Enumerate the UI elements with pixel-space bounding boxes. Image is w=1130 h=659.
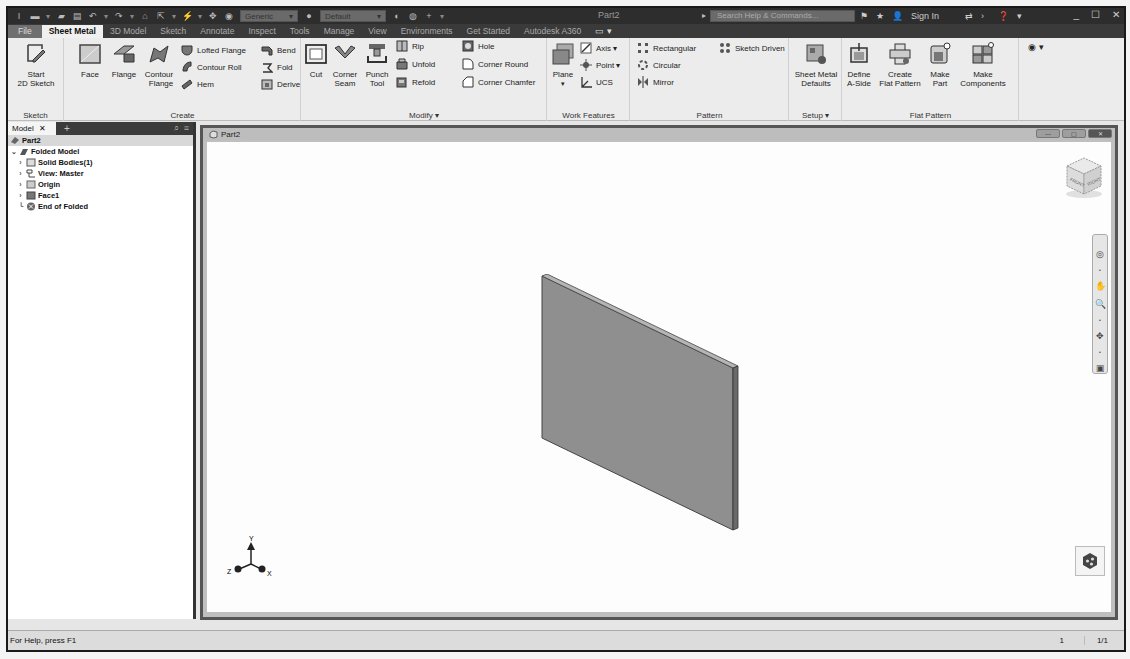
mirror-button[interactable]: Mirror <box>637 76 674 88</box>
rip-button[interactable]: Rip <box>396 40 424 52</box>
panel-title-setup[interactable]: Setup ▾ <box>790 111 841 120</box>
maximize-icon[interactable]: ☐ <box>1091 9 1100 20</box>
tree-item-part2[interactable]: Part2 <box>8 135 193 146</box>
menu-icon[interactable]: ≡ <box>184 123 189 134</box>
tab-sketch[interactable]: Sketch <box>153 25 193 38</box>
subscription-icon[interactable]: ⚑ <box>860 11 868 21</box>
close-icon[interactable]: ✕ <box>1112 9 1120 20</box>
appearance-dropdown[interactable]: Default▾ <box>320 10 386 22</box>
start-2d-sketch-button[interactable]: Start 2D Sketch <box>12 42 60 88</box>
adjust-icon[interactable]: ◍ <box>408 11 418 21</box>
bend-button[interactable]: Bend <box>261 44 296 56</box>
flange-button[interactable]: Flange <box>109 42 139 79</box>
circular-pattern-button[interactable]: Circular <box>637 59 681 71</box>
rectangular-pattern-button[interactable]: Rectangular <box>637 42 696 54</box>
customize-qat-icon[interactable]: ▾ <box>440 12 444 21</box>
home-icon[interactable]: ⌂ <box>140 11 150 21</box>
tab-get-started[interactable]: Get Started <box>460 25 517 38</box>
viewcube[interactable]: FRONT RIGHT <box>1061 154 1107 200</box>
face-button[interactable]: Face <box>77 42 103 79</box>
more-arrow-icon[interactable]: › <box>981 11 984 21</box>
tab-tools[interactable]: Tools <box>283 25 317 38</box>
doc-close-button[interactable]: ✕ <box>1088 129 1112 138</box>
tree-item-origin[interactable]: › Origin <box>8 179 193 190</box>
tab-inspect[interactable]: Inspect <box>241 25 282 38</box>
fx-icon[interactable]: + <box>424 11 434 21</box>
expand-icon[interactable]: › <box>17 170 24 177</box>
tab-manage[interactable]: Manage <box>317 25 362 38</box>
tree-item-view-master[interactable]: › View: Master <box>8 168 193 179</box>
steering-wheel-icon[interactable]: ◎ <box>1096 249 1104 259</box>
minimize-icon[interactable]: _ <box>1073 9 1079 20</box>
clear-appearance-icon[interactable]: ◐ <box>392 11 402 21</box>
ribbon-more-options-icon[interactable]: ◉ ▾ <box>1028 42 1044 52</box>
exchange-icon[interactable]: ⇄ <box>965 11 973 21</box>
create-flat-pattern-button[interactable]: Create Flat Pattern <box>876 42 924 88</box>
help-search-input[interactable]: Search Help & Commands... <box>710 10 855 22</box>
sketch-driven-pattern-button[interactable]: Sketch Driven <box>719 42 785 54</box>
inventor-logo-icon[interactable]: I <box>14 11 24 21</box>
redo-icon[interactable]: ↷ <box>114 11 124 21</box>
tab-autodesk-a360[interactable]: Autodesk A360 <box>517 25 588 38</box>
update-icon[interactable]: ⚡ <box>182 11 192 21</box>
tab-sheet-metal[interactable]: Sheet Metal <box>42 25 103 38</box>
fold-button[interactable]: Fold <box>261 61 293 73</box>
panel-title-modify[interactable]: Modify ▾ <box>302 111 546 120</box>
ucs-button[interactable]: UCS <box>580 76 613 88</box>
tab-file[interactable]: File <box>8 25 42 38</box>
hem-button[interactable]: Hem <box>181 78 214 90</box>
plane-dropdown-icon[interactable]: ▾ <box>561 79 565 88</box>
make-components-button[interactable]: Make Components <box>957 42 1009 88</box>
sheet-metal-defaults-button[interactable]: Sheet Metal Defaults <box>792 42 840 88</box>
derive-button[interactable]: Derive <box>261 78 300 90</box>
save-icon[interactable]: ▤ <box>72 11 82 21</box>
make-part-button[interactable]: Make Part <box>925 42 955 88</box>
tab-annotate[interactable]: Annotate <box>193 25 241 38</box>
tab-model[interactable]: Model ✕ <box>8 122 56 135</box>
measure-icon[interactable]: ✥ <box>208 11 218 21</box>
tab-environments[interactable]: Environments <box>394 25 460 38</box>
ribbon-display-toggle-icon[interactable]: ▭ ▾ <box>588 25 618 38</box>
color-icon[interactable]: ◉ <box>224 11 234 21</box>
tree-item-folded-model[interactable]: ⌄ Folded Model <box>8 146 193 157</box>
plane-button[interactable]: Plane ▾ <box>550 42 576 88</box>
pan-icon[interactable]: ✋ <box>1095 281 1106 291</box>
tree-item-solid-bodies[interactable]: › Solid Bodies(1) <box>8 157 193 168</box>
select-icon[interactable]: ⇱ <box>156 11 166 21</box>
graphics-canvas[interactable]: FRONT RIGHT ◎ • ✋ 🔍 • ✥ • ▣ <box>207 142 1111 612</box>
tree-item-end-of-folded[interactable]: ╰ End of Folded <box>8 201 193 212</box>
search-icon[interactable]: ⌕ <box>174 123 179 134</box>
corner-chamfer-button[interactable]: Corner Chamfer <box>462 76 535 88</box>
lofted-flange-button[interactable]: Lofted Flange <box>181 44 246 56</box>
sheet-metal-face-model[interactable] <box>537 274 747 534</box>
help-icon[interactable]: ❓ <box>998 11 1009 21</box>
define-a-side-button[interactable]: Define A-Side <box>843 42 875 88</box>
collapse-icon[interactable]: ⌄ <box>10 148 17 156</box>
point-button[interactable]: Point ▾ <box>580 59 620 71</box>
axis-button[interactable]: Axis ▾ <box>580 42 617 54</box>
expand-icon[interactable]: › <box>17 181 24 188</box>
zoom-icon[interactable]: 🔍 <box>1095 299 1106 309</box>
look-at-icon[interactable]: ▣ <box>1096 363 1105 373</box>
navigation-wheel-button[interactable] <box>1075 546 1105 576</box>
tab-view[interactable]: View <box>361 25 393 38</box>
expand-icon[interactable]: › <box>17 192 24 199</box>
open-icon[interactable]: ▰ <box>56 11 66 21</box>
contour-flange-button[interactable]: Contour Flange <box>141 42 177 88</box>
cut-button[interactable]: Cut <box>304 42 328 79</box>
doc-minimize-button[interactable]: — <box>1036 129 1060 138</box>
orbit-icon[interactable]: ✥ <box>1096 331 1104 341</box>
tree-item-face1[interactable]: › Face1 <box>8 190 193 201</box>
help-dropdown-icon[interactable]: ▾ <box>1017 11 1022 21</box>
corner-round-button[interactable]: Corner Round <box>462 58 528 70</box>
tab-3d-model[interactable]: 3D Model <box>103 25 153 38</box>
punch-tool-button[interactable]: Punch Tool <box>362 42 392 88</box>
doc-restore-button[interactable]: ▢ <box>1062 129 1086 138</box>
contour-roll-button[interactable]: Contour Roll <box>181 61 241 73</box>
hole-button[interactable]: Hole <box>462 40 494 52</box>
corner-seam-button[interactable]: Corner Seam <box>330 42 360 88</box>
undo-icon[interactable]: ↶ <box>88 11 98 21</box>
favorites-star-icon[interactable]: ★ <box>876 11 884 21</box>
sign-in-link[interactable]: Sign In <box>911 11 939 21</box>
add-browser-tab-icon[interactable]: + <box>64 123 70 134</box>
